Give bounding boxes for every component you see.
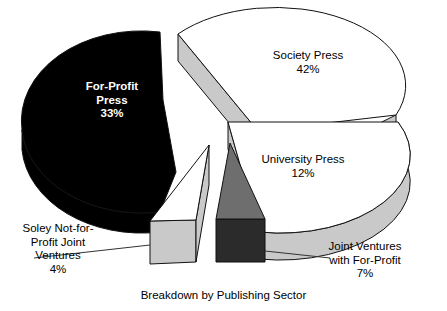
pie-chart: Society Press 42% For-Profit Press 33% U… bbox=[0, 0, 447, 311]
slice-label-soley-name-line2: Profit Joint bbox=[2, 236, 114, 250]
slice-label-for-profit-press-name-line2: Press bbox=[57, 94, 167, 108]
pie-slice-soley-side bbox=[150, 220, 196, 264]
slice-label-society-press: Society Press 42% bbox=[243, 49, 373, 76]
slice-label-joint-ventures-value: 7% bbox=[295, 267, 435, 281]
slice-label-for-profit-press-name-line1: For-Profit bbox=[57, 80, 167, 94]
slice-label-soley-name-line1: Soley Not-for- bbox=[2, 222, 114, 236]
slice-label-joint-ventures-name-line1: Joint Ventures bbox=[295, 240, 435, 254]
slice-label-university-press-value: 12% bbox=[243, 167, 363, 181]
slice-label-joint-ventures-name-line2: with For-Profit bbox=[295, 254, 435, 268]
slice-label-soley-name-line3: Ventures bbox=[2, 249, 114, 263]
slice-label-joint-ventures: Joint Ventures with For-Profit 7% bbox=[295, 240, 435, 281]
slice-label-society-press-name: Society Press bbox=[243, 49, 373, 63]
chart-caption: Breakdown by Publishing Sector bbox=[0, 289, 447, 301]
pie-slice-joint-ventures-side bbox=[216, 219, 265, 262]
slice-label-for-profit-press-value: 33% bbox=[57, 107, 167, 121]
slice-label-university-press-name: University Press bbox=[243, 153, 363, 167]
slice-label-soley-not-for-profit: Soley Not-for- Profit Joint Ventures 4% bbox=[2, 222, 114, 276]
slice-label-for-profit-press: For-Profit Press 33% bbox=[57, 80, 167, 121]
pie-slice-for-profit-press[interactable] bbox=[21, 31, 176, 233]
slice-label-society-press-value: 42% bbox=[243, 63, 373, 77]
slice-label-university-press: University Press 12% bbox=[243, 153, 363, 180]
slice-label-soley-value: 4% bbox=[2, 263, 114, 277]
